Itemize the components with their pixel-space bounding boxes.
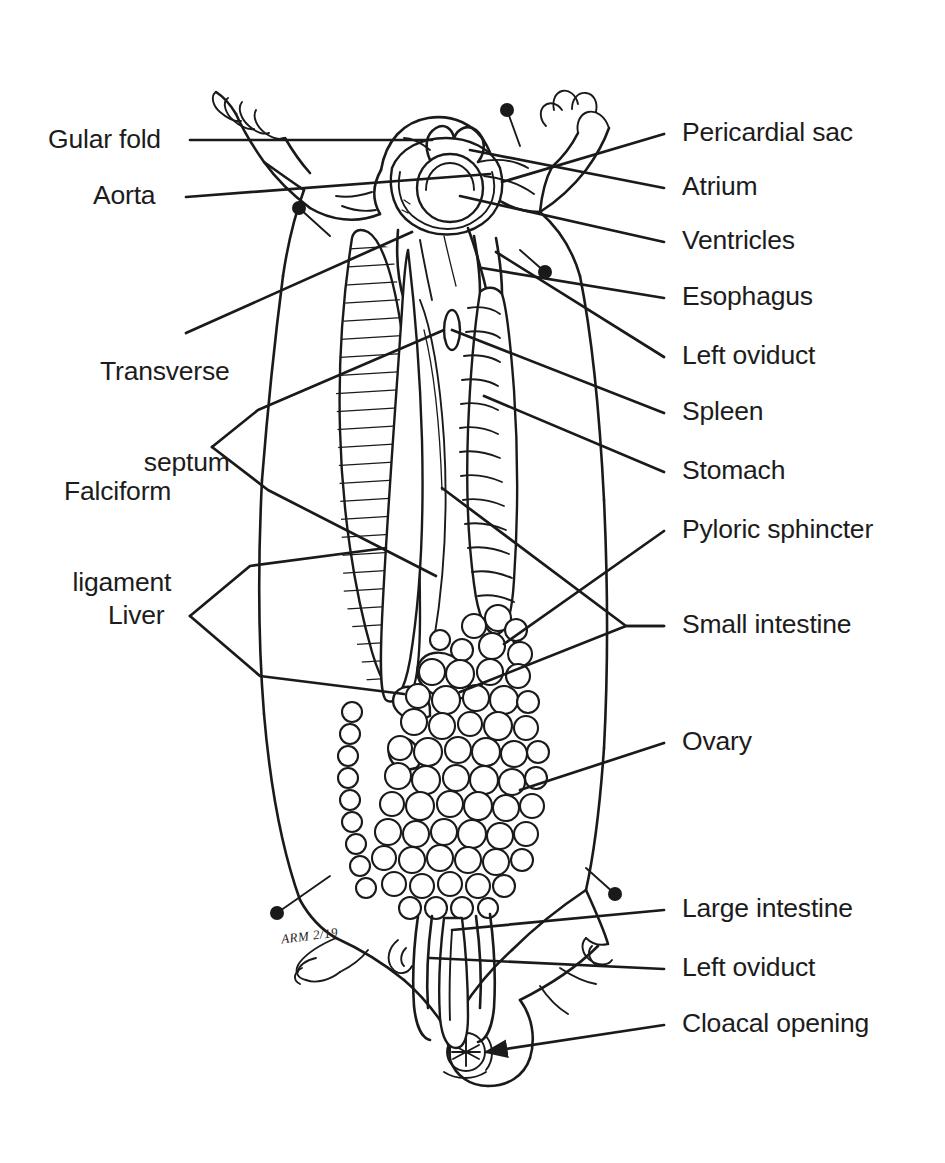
- label-spleen[interactable]: Spleen: [682, 396, 763, 426]
- large-intestine-structure: [439, 918, 468, 1048]
- label-ventricles[interactable]: Ventricles: [682, 225, 795, 255]
- label-large-intestine[interactable]: Large intestine: [682, 893, 853, 923]
- label-stomach[interactable]: Stomach: [682, 455, 785, 485]
- label-cloacal-opening[interactable]: Cloacal opening: [682, 1008, 869, 1038]
- label-atrium[interactable]: Atrium: [682, 171, 757, 201]
- label-pericardial-sac[interactable]: Pericardial sac: [682, 117, 853, 147]
- leader-left-oviduct-upper: [496, 252, 664, 357]
- dissection-figure: .ln { fill:none; stroke:#1a1a1a; stroke-…: [0, 0, 945, 1163]
- label-ovary[interactable]: Ovary: [682, 726, 752, 756]
- left-ovary-string: [338, 702, 376, 898]
- label-line: Transverse: [100, 356, 230, 386]
- label-aorta[interactable]: Aorta: [93, 180, 155, 210]
- label-esophagus[interactable]: Esophagus: [682, 281, 813, 311]
- leader-cloacal-opening: [486, 1025, 664, 1052]
- label-liver[interactable]: Liver: [108, 600, 164, 630]
- liver-structure: [330, 230, 446, 701]
- leader-esophagus: [482, 268, 664, 298]
- label-small-intestine[interactable]: Small intestine: [682, 609, 851, 639]
- label-line: Falciform: [64, 476, 171, 506]
- stomach-structure: [444, 236, 517, 660]
- label-left-oviduct-upper[interactable]: Left oviduct: [682, 340, 815, 370]
- label-left-oviduct-lower[interactable]: Left oviduct: [682, 952, 815, 982]
- label-pyloric-sphincter[interactable]: Pyloric sphincter: [682, 514, 873, 544]
- label-gular-fold[interactable]: Gular fold: [48, 124, 161, 154]
- label-line: ligament: [64, 567, 171, 597]
